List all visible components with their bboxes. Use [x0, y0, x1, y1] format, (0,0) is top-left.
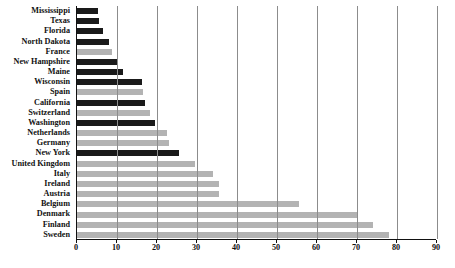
bar-row [77, 57, 436, 67]
bar-row [77, 159, 436, 169]
bar [77, 161, 195, 167]
x-tick-label: 0 [74, 243, 78, 252]
bar-row [77, 87, 436, 97]
x-tick-mark [76, 240, 77, 243]
bar-row [77, 230, 436, 240]
gridline-10 [117, 6, 118, 239]
category-label: Washington [0, 118, 73, 128]
x-tick-label: 60 [312, 243, 320, 252]
bar [77, 28, 103, 34]
bar [77, 212, 357, 218]
x-tick-label: 90 [432, 243, 440, 252]
x-tick-label: 80 [392, 243, 400, 252]
bar-row [77, 199, 436, 209]
x-tick-mark [116, 240, 117, 243]
bar-row [77, 16, 436, 26]
category-label: Netherlands [0, 128, 73, 138]
bar [77, 39, 109, 45]
gridline-30 [197, 6, 198, 239]
category-label: Spain [0, 87, 73, 97]
x-tick-label: 20 [152, 243, 160, 252]
bar [77, 140, 169, 146]
category-label: Texas [0, 16, 73, 26]
category-label: France [0, 47, 73, 57]
bar [77, 171, 213, 177]
bar-row [77, 47, 436, 57]
bar-row [77, 77, 436, 87]
x-tick-label: 70 [352, 243, 360, 252]
category-label: Belgium [0, 199, 73, 209]
bar [77, 222, 373, 228]
gridline-80 [397, 6, 398, 239]
category-label: Denmark [0, 209, 73, 219]
x-tick-label: 40 [232, 243, 240, 252]
bar-row [77, 209, 436, 219]
x-tick-label: 50 [272, 243, 280, 252]
category-label: Florida [0, 26, 73, 36]
bar-row [77, 220, 436, 230]
bar [77, 18, 99, 24]
x-tick-mark [156, 240, 157, 243]
gridline-50 [277, 6, 278, 239]
bar [77, 59, 118, 65]
bars-container [77, 6, 436, 239]
bar-row [77, 37, 436, 47]
x-tick-label: 30 [192, 243, 200, 252]
x-tick-mark [436, 240, 437, 243]
bar-row [77, 26, 436, 36]
x-tick-mark [396, 240, 397, 243]
category-label: Wisconsin [0, 77, 73, 87]
bar-row [77, 148, 436, 158]
bar-chart: MississippiTexasFloridaNorth DakotaFranc… [0, 0, 455, 268]
x-tick-mark [316, 240, 317, 243]
bar [77, 49, 112, 55]
category-label: Italy [0, 169, 73, 179]
category-label: Finland [0, 220, 73, 230]
bar-row [77, 138, 436, 148]
bar [77, 120, 155, 126]
bar [77, 8, 98, 14]
x-tick-mark [196, 240, 197, 243]
x-tick-label: 10 [112, 243, 120, 252]
bar [77, 100, 145, 106]
gridline-40 [237, 6, 238, 239]
category-axis-labels: MississippiTexasFloridaNorth DakotaFranc… [0, 6, 73, 240]
bar [77, 79, 142, 85]
category-label: North Dakota [0, 37, 73, 47]
bar [77, 150, 179, 156]
bar-row [77, 169, 436, 179]
category-label: Sweden [0, 230, 73, 240]
category-label: Maine [0, 67, 73, 77]
bar-row [77, 189, 436, 199]
category-label: Mississippi [0, 6, 73, 16]
bar-row [77, 98, 436, 108]
gridline-60 [317, 6, 318, 239]
value-axis-labels: 0102030405060708090 [0, 243, 455, 257]
category-label: New Hampshire [0, 57, 73, 67]
category-label: Germany [0, 138, 73, 148]
category-label: Ireland [0, 179, 73, 189]
bar [77, 130, 167, 136]
gridline-90 [437, 6, 438, 239]
x-tick-mark [236, 240, 237, 243]
bar-row [77, 128, 436, 138]
gridline-70 [357, 6, 358, 239]
bar [77, 201, 299, 207]
bar-row [77, 108, 436, 118]
category-label: New York [0, 148, 73, 158]
category-label: California [0, 98, 73, 108]
x-tick-mark [356, 240, 357, 243]
bar-row [77, 67, 436, 77]
bar-row [77, 6, 436, 16]
bar [77, 89, 143, 95]
category-label: Austria [0, 189, 73, 199]
bar-row [77, 118, 436, 128]
category-label: United Kingdom [0, 159, 73, 169]
gridline-20 [157, 6, 158, 239]
category-label: Switzerland [0, 108, 73, 118]
x-tick-mark [276, 240, 277, 243]
bar-row [77, 179, 436, 189]
bar [77, 110, 150, 116]
plot-area [76, 6, 436, 240]
bar [77, 232, 389, 238]
